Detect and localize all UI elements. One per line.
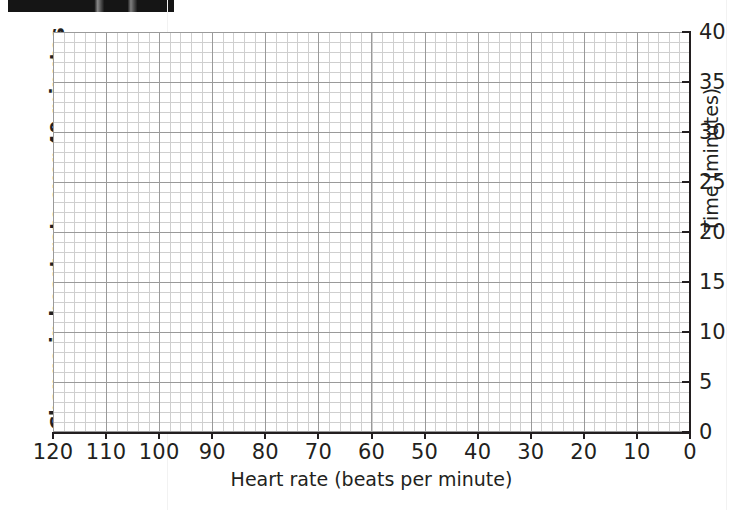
plot-grid-area	[53, 32, 690, 432]
x-axis-tick-label: 110	[76, 440, 136, 464]
x-axis-tick	[158, 432, 160, 439]
x-axis-tick-label: 50	[395, 440, 455, 464]
x-axis-tick	[477, 432, 479, 439]
x-axis-tick	[636, 432, 638, 439]
y-axis-tick-label: 0	[699, 420, 712, 444]
y-axis-tick	[682, 31, 690, 33]
y-axis-tick	[682, 431, 690, 433]
x-axis-tick	[689, 432, 691, 439]
x-axis-tick-label: 20	[554, 440, 614, 464]
x-axis-tick	[317, 432, 319, 439]
x-axis-tick	[105, 432, 107, 439]
y-axis-tick	[682, 381, 690, 383]
x-axis-tick-label: 30	[501, 440, 561, 464]
x-axis-tick	[52, 432, 54, 439]
y-axis-tick	[682, 131, 690, 133]
x-axis-title: Heart rate (beats per minute)	[53, 468, 690, 490]
x-axis-tick-label: 40	[448, 440, 508, 464]
x-axis-tick-label: 80	[235, 440, 295, 464]
x-axis-tick-label: 90	[182, 440, 242, 464]
y-axis-title: Time (minutes)	[700, 32, 722, 232]
x-axis-tick-label: 120	[23, 440, 83, 464]
x-axis-tick-label: 70	[288, 440, 348, 464]
x-axis-tick-label: 10	[607, 440, 667, 464]
y-axis-tick-label: 5	[699, 370, 712, 394]
x-axis-tick	[530, 432, 532, 439]
x-axis-tick-label: 60	[342, 440, 402, 464]
y-axis-tick	[682, 81, 690, 83]
x-axis-tick	[264, 432, 266, 439]
x-axis-tick	[424, 432, 426, 439]
y-axis-tick	[682, 231, 690, 233]
x-axis-tick	[583, 432, 585, 439]
y-axis-tick	[682, 331, 690, 333]
x-axis-tick	[211, 432, 213, 439]
x-axis-tick-label: 100	[129, 440, 189, 464]
y-axis-tick	[682, 281, 690, 283]
page-seam-right	[726, 0, 727, 510]
redacted-header-bar	[8, 0, 174, 12]
y-axis-tick-label: 15	[699, 270, 726, 294]
y-axis-tick-label: 10	[699, 320, 726, 344]
x-axis-tick	[371, 432, 373, 439]
y-axis-tick	[682, 181, 690, 183]
